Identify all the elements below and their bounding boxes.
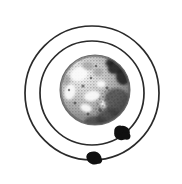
atom-diagram-svg — [0, 0, 182, 184]
atom-diagram-figure: Bohr atom model Atom diagram: shaded sph… — [0, 0, 182, 184]
